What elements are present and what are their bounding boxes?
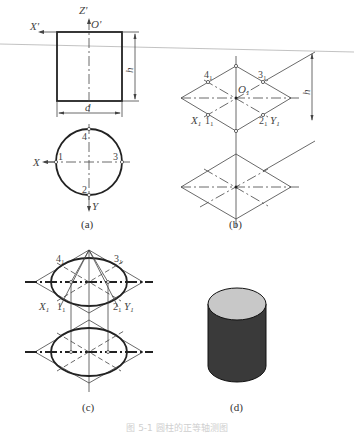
o-prime-label: O'	[91, 18, 102, 30]
bottom-vertex-point	[234, 129, 237, 132]
upper-extension-line	[263, 52, 315, 82]
y1-label: Y1	[124, 300, 134, 314]
point-3-label: 31	[258, 69, 267, 82]
lower-diagonal-2	[57, 331, 124, 371]
h-arrow-bottom-icon	[134, 94, 137, 100]
point-3	[120, 160, 123, 163]
h-arrow-bottom-icon	[311, 115, 314, 121]
upper-diagonal-2	[57, 261, 124, 301]
construction-ray-3	[71, 250, 89, 282]
y-label: Y	[92, 200, 100, 212]
center-point-left	[70, 281, 73, 284]
y1-label: Y1	[270, 114, 280, 128]
lower-diagonal-centerline-2	[200, 169, 268, 207]
caption-a: (a)	[81, 218, 94, 231]
point-1-label: 11	[57, 301, 66, 314]
point-4	[87, 127, 90, 130]
panel-c-ellipse-construction: 41 31 X1 11 21 Y1 (c)	[25, 250, 153, 414]
panel-d-cylinder: (d)	[208, 288, 266, 414]
point-2-label: 2	[82, 184, 87, 195]
figure-caption: 图 5-1 圆柱的正等轴测图	[0, 421, 354, 434]
h-label: h	[300, 89, 312, 95]
panel-a-front-view: X' Z' O' h d	[29, 4, 139, 117]
front-view-rectangle	[57, 32, 122, 101]
point-2-label: 21	[113, 301, 122, 314]
lower-center-point-right	[107, 351, 110, 354]
lower-extension-line	[263, 141, 315, 171]
point-3-label: 3	[113, 151, 118, 162]
d-arrow-left-icon	[58, 112, 64, 115]
h-arrow-top-icon	[134, 33, 137, 39]
panel-a-top-view: X Y 1 2 3 4 (a)	[32, 124, 132, 231]
caption-d: (d)	[230, 401, 243, 414]
x-axis-arrow-icon	[42, 160, 48, 164]
z-prime-label: Z'	[79, 4, 88, 16]
point-4-label: 41	[56, 253, 65, 266]
construction-ray-4	[89, 250, 108, 282]
caption-b: (b)	[229, 218, 242, 231]
origin-point	[235, 97, 238, 100]
caption-c: (c)	[82, 401, 95, 414]
cylinder-top-face	[208, 288, 266, 320]
h-label: h	[123, 67, 135, 73]
x-label: X	[32, 156, 41, 168]
point-2	[87, 193, 90, 196]
x1-label: X1	[190, 114, 201, 128]
panel-b-construction: h 41 31 O1 X1 11 21 Y1 (b)	[181, 52, 315, 231]
x1-label: X1	[38, 300, 49, 314]
point-2-label: 21	[259, 115, 268, 128]
lower-center-point-left	[70, 351, 73, 354]
x-prime-label: X'	[29, 20, 40, 32]
point-4-label: 41	[204, 69, 213, 82]
point-1-label: 1	[58, 151, 63, 162]
scan-artifact-line	[0, 44, 354, 52]
lower-center-point	[235, 186, 238, 189]
point-4-label: 4	[82, 131, 87, 142]
origin-label: O1	[238, 83, 249, 97]
d-label: d	[85, 101, 91, 113]
top-vertex-point	[234, 64, 237, 67]
y-axis-arrow-icon	[87, 206, 91, 212]
center-point-right	[107, 281, 110, 284]
d-arrow-right-icon	[115, 112, 121, 115]
